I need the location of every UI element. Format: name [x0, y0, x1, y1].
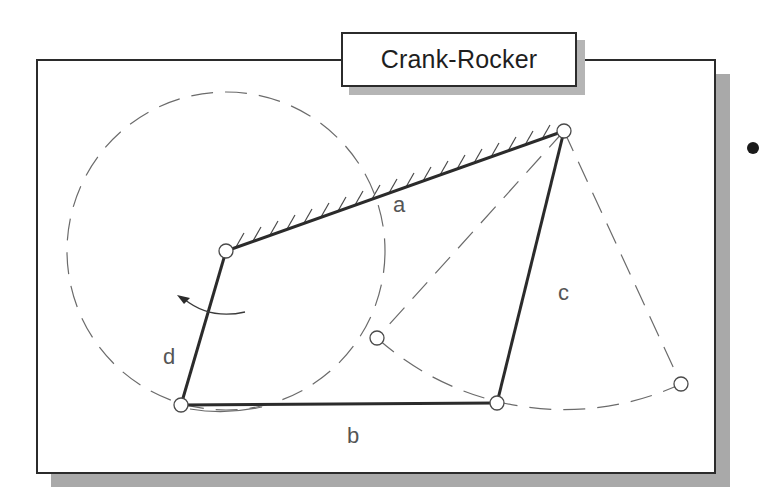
rocker-swing-arc — [377, 338, 681, 410]
bullet-icon — [747, 142, 759, 154]
title-box: Crank-Rocker — [341, 32, 577, 87]
ground-hatching — [236, 125, 550, 247]
diagram-title: Crank-Rocker — [381, 45, 538, 74]
pivot-c — [490, 396, 504, 410]
pivot-rocker-extreme-left — [370, 331, 384, 345]
pivot-a — [219, 244, 233, 258]
link-a-ground — [226, 131, 564, 251]
pivot-rocker-extreme-right — [674, 377, 688, 391]
label-b: b — [347, 423, 359, 448]
rocker-extreme-right-line — [564, 131, 681, 384]
label-d: d — [163, 344, 175, 369]
link-d-crank — [181, 251, 226, 405]
label-a: a — [393, 192, 406, 217]
rotation-arrow-arc — [184, 299, 245, 314]
link-b-coupler — [181, 403, 497, 405]
rocker-extreme-left-line — [377, 131, 564, 338]
label-c: c — [558, 280, 569, 305]
pivot-d — [557, 124, 571, 138]
pivot-b — [174, 398, 188, 412]
link-c-rocker — [497, 131, 564, 403]
